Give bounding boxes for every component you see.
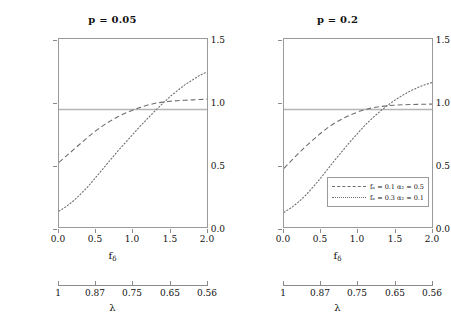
- x-tick-mark-1.5-right: [395, 229, 396, 233]
- x-axis-label: fδ: [0, 250, 225, 263]
- curve-dashed-left: [59, 99, 207, 162]
- x-tick-mark-2.0: [207, 229, 208, 233]
- x-tick-mark-1.0: [132, 229, 133, 233]
- panel-p005: p = 0.05 1.5 1.0 0.5 0.0 Relative Effici…: [0, 0, 225, 325]
- lambda-tick-0.87: [95, 281, 96, 285]
- x-axis-label-subscript: δ: [112, 255, 116, 263]
- panel-title-right: p = 0.2: [225, 14, 450, 25]
- lambda-tick-1: [58, 281, 59, 285]
- y-tick-mark-0.0: [53, 229, 57, 230]
- x-tick-mark-0.0-right: [283, 229, 284, 233]
- lambda-axis-title: λ: [0, 302, 225, 313]
- x-tick-mark-1.0-right: [357, 229, 358, 233]
- x-tick-mark-2.0-right: [432, 229, 433, 233]
- x-tick-label-2.0: 2.0: [192, 234, 222, 244]
- lambda-label-0.56-right: 0.56: [415, 288, 449, 298]
- lambda-axis-line-right: [283, 285, 433, 286]
- legend-key-dashed-icon: [332, 186, 366, 188]
- plot-area-right: fₙ = 0.1 α₂ = 0.5 fₙ = 0.3 α₂ = 0.1: [283, 38, 433, 228]
- lambda-tick-0.56-right: [432, 281, 433, 285]
- legend-key-dotted-icon: [332, 197, 366, 199]
- x-tick-label-1.0: 1.0: [117, 234, 147, 244]
- curve-dashed-right: [284, 104, 432, 168]
- x-tick-mark-0.0: [58, 229, 59, 233]
- y-tick-mark-1.5: [53, 40, 57, 41]
- x-tick-mark-1.5: [170, 229, 171, 233]
- lambda-label-0.65: 0.65: [153, 288, 187, 298]
- lambda-tick-0.87-right: [320, 281, 321, 285]
- lambda-tick-0.65: [170, 281, 171, 285]
- y-tick-mark-1.5-right: [278, 40, 282, 41]
- lambda-tick-0.75: [132, 281, 133, 285]
- lambda-label-0.75-right: 0.75: [340, 288, 374, 298]
- x-tick-label-0.5-right: 0.5: [305, 234, 335, 244]
- x-tick-label-1.5-right: 1.5: [380, 234, 410, 244]
- y-tick-mark-0.5: [53, 166, 57, 167]
- lambda-label-0.75: 0.75: [115, 288, 149, 298]
- x-axis-label-right: fδ: [225, 250, 450, 263]
- y-tick-mark-1.0: [53, 103, 57, 104]
- x-tick-label-1.0-right: 1.0: [342, 234, 372, 244]
- plot-area-left: [58, 38, 208, 228]
- plot-svg-left: [59, 39, 207, 227]
- lambda-tick-0.56: [207, 281, 208, 285]
- lambda-label-0.87: 0.87: [78, 288, 112, 298]
- lambda-label-1: 1: [41, 288, 75, 298]
- lambda-label-0.65-right: 0.65: [378, 288, 412, 298]
- lambda-tick-0.65-right: [395, 281, 396, 285]
- x-tick-label-0.0-right: 0.0: [268, 234, 298, 244]
- lambda-axis-title-right: λ: [225, 302, 450, 313]
- panel-title-left: p = 0.05: [0, 14, 225, 25]
- lambda-label-1-right: 1: [266, 288, 300, 298]
- lambda-tick-0.75-right: [357, 281, 358, 285]
- x-tick-mark-0.5: [95, 229, 96, 233]
- x-tick-label-0.0: 0.0: [43, 234, 73, 244]
- x-tick-label-2.0-right: 2.0: [417, 234, 447, 244]
- x-tick-label-1.5: 1.5: [155, 234, 185, 244]
- x-tick-label-0.5: 0.5: [80, 234, 110, 244]
- legend-row-dotted: fₙ = 0.3 α₂ = 0.1: [332, 192, 424, 203]
- figure-container: p = 0.05 1.5 1.0 0.5 0.0 Relative Effici…: [0, 0, 451, 325]
- lambda-label-0.87-right: 0.87: [303, 288, 337, 298]
- legend-label-dashed: fₙ = 0.1 α₂ = 0.5: [370, 183, 424, 191]
- curve-dotted-left: [59, 72, 207, 211]
- x-tick-mark-0.5-right: [320, 229, 321, 233]
- y-tick-mark-0.5-right: [278, 166, 282, 167]
- panel-p02: p = 0.2 1.5 1.0 0.5 0.0 Relative Efficie…: [225, 0, 450, 325]
- legend-row-dashed: fₙ = 0.1 α₂ = 0.5: [332, 181, 424, 192]
- x-axis-label-subscript-right: δ: [337, 255, 341, 263]
- y-tick-mark-0.0-right: [278, 229, 282, 230]
- lambda-label-0.56: 0.56: [190, 288, 224, 298]
- y-tick-mark-1.0-right: [278, 103, 282, 104]
- legend-label-dotted: fₙ = 0.3 α₂ = 0.1: [370, 194, 424, 202]
- lambda-axis-line-left: [58, 285, 208, 286]
- legend[interactable]: fₙ = 0.1 α₂ = 0.5 fₙ = 0.3 α₂ = 0.1: [327, 177, 429, 207]
- lambda-tick-1-right: [283, 281, 284, 285]
